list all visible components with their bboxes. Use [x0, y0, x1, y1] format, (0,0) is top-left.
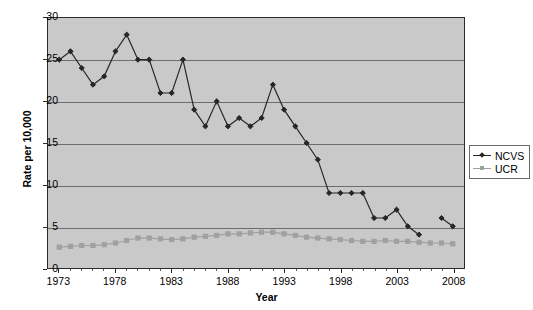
- x-axis-minor-tick: [352, 269, 353, 271]
- x-axis-tick-label: 2003: [386, 275, 409, 287]
- x-axis-tick-label: 1978: [103, 275, 126, 287]
- legend-marker-icon: [473, 164, 491, 173]
- data-point: [102, 243, 106, 247]
- data-point: [214, 99, 219, 104]
- x-axis-minor-tick: [420, 269, 421, 271]
- legend-label: UCR: [495, 163, 518, 175]
- data-point: [394, 239, 398, 243]
- y-axis-tick-mark: [43, 17, 47, 18]
- data-point: [361, 239, 365, 243]
- data-point: [259, 230, 263, 234]
- data-point: [203, 234, 207, 238]
- x-axis-minor-tick: [205, 269, 206, 271]
- x-axis-minor-tick: [70, 269, 71, 271]
- data-point: [349, 190, 354, 195]
- data-point: [125, 238, 129, 242]
- data-point: [360, 190, 365, 195]
- legend-item-ncvs[interactable]: NCVS: [473, 149, 524, 162]
- x-axis-minor-tick: [431, 269, 432, 271]
- x-axis-tick-label: 1993: [273, 275, 296, 287]
- x-axis-minor-tick: [262, 269, 263, 271]
- data-point: [338, 238, 342, 242]
- x-axis-tick-label: 1988: [216, 275, 239, 287]
- series-line: [59, 35, 419, 235]
- data-point: [147, 236, 151, 240]
- x-axis-title: Year: [0, 291, 533, 303]
- data-point: [327, 237, 331, 241]
- data-point: [68, 244, 72, 248]
- x-axis-tick-label: 1998: [329, 275, 352, 287]
- data-point: [417, 240, 421, 244]
- data-point: [80, 243, 84, 247]
- x-axis-minor-tick: [329, 269, 330, 271]
- data-point: [282, 232, 286, 236]
- x-axis-tick-label: 1973: [47, 275, 70, 287]
- x-axis-tick-mark: [58, 269, 59, 273]
- x-axis-minor-tick: [296, 269, 297, 271]
- legend-label: NCVS: [495, 150, 524, 162]
- series-line: [59, 232, 453, 247]
- y-axis-tick-mark: [43, 143, 47, 144]
- data-point: [372, 239, 376, 243]
- data-point: [180, 57, 185, 62]
- x-axis-minor-tick: [149, 269, 150, 271]
- y-axis-title: Rate per 10,000: [21, 84, 33, 214]
- data-point: [192, 235, 196, 239]
- data-point: [349, 238, 353, 242]
- x-axis-minor-tick: [103, 269, 104, 271]
- x-axis-minor-tick: [307, 269, 308, 271]
- legend-marker-icon: [473, 151, 491, 160]
- x-axis-tick-mark: [397, 269, 398, 273]
- plot-area: [47, 17, 465, 269]
- x-axis-tick-label: 2008: [442, 275, 465, 287]
- x-axis-minor-tick: [386, 269, 387, 271]
- x-axis-tick-label: 1983: [160, 275, 183, 287]
- x-axis-tick-mark: [341, 269, 342, 273]
- legend: NCVSUCR: [469, 145, 530, 179]
- data-point: [371, 215, 376, 220]
- data-point: [316, 236, 320, 240]
- x-axis-minor-tick: [318, 269, 319, 271]
- x-axis-tick-mark: [284, 269, 285, 273]
- series-lines: [48, 18, 464, 268]
- y-axis-tick-mark: [43, 269, 47, 270]
- data-point: [406, 239, 410, 243]
- x-axis-minor-tick: [250, 269, 251, 271]
- y-axis-tick-mark: [43, 185, 47, 186]
- data-point: [304, 235, 308, 239]
- data-point: [451, 242, 455, 246]
- x-axis-minor-tick: [363, 269, 364, 271]
- x-axis-minor-tick: [160, 269, 161, 271]
- x-axis-minor-tick: [92, 269, 93, 271]
- series-ucr: [57, 230, 455, 249]
- data-point: [338, 190, 343, 195]
- data-point: [215, 233, 219, 237]
- data-point: [158, 237, 162, 241]
- data-point: [428, 241, 432, 245]
- x-axis-minor-tick: [409, 269, 410, 271]
- x-axis-minor-tick: [273, 269, 274, 271]
- x-axis-tick-mark: [454, 269, 455, 273]
- data-point: [237, 232, 241, 236]
- x-axis-minor-tick: [126, 269, 127, 271]
- data-point: [158, 90, 163, 95]
- x-axis-minor-tick: [239, 269, 240, 271]
- data-point: [270, 82, 275, 87]
- data-point: [271, 230, 275, 234]
- x-axis-minor-tick: [216, 269, 217, 271]
- data-point: [326, 190, 331, 195]
- data-point: [169, 90, 174, 95]
- data-point: [91, 243, 95, 247]
- series-ncvs: [57, 32, 456, 237]
- x-axis-tick-mark: [228, 269, 229, 273]
- x-axis-minor-tick: [183, 269, 184, 271]
- data-point: [113, 241, 117, 245]
- y-axis-tick-mark: [43, 227, 47, 228]
- x-axis-tick-mark: [171, 269, 172, 273]
- data-point: [181, 237, 185, 241]
- legend-item-ucr[interactable]: UCR: [473, 162, 524, 175]
- line-chart: 051015202530 Rate per 10,000 19731978198…: [0, 0, 533, 310]
- data-point: [439, 241, 443, 245]
- x-axis-minor-tick: [442, 269, 443, 271]
- data-point: [170, 238, 174, 242]
